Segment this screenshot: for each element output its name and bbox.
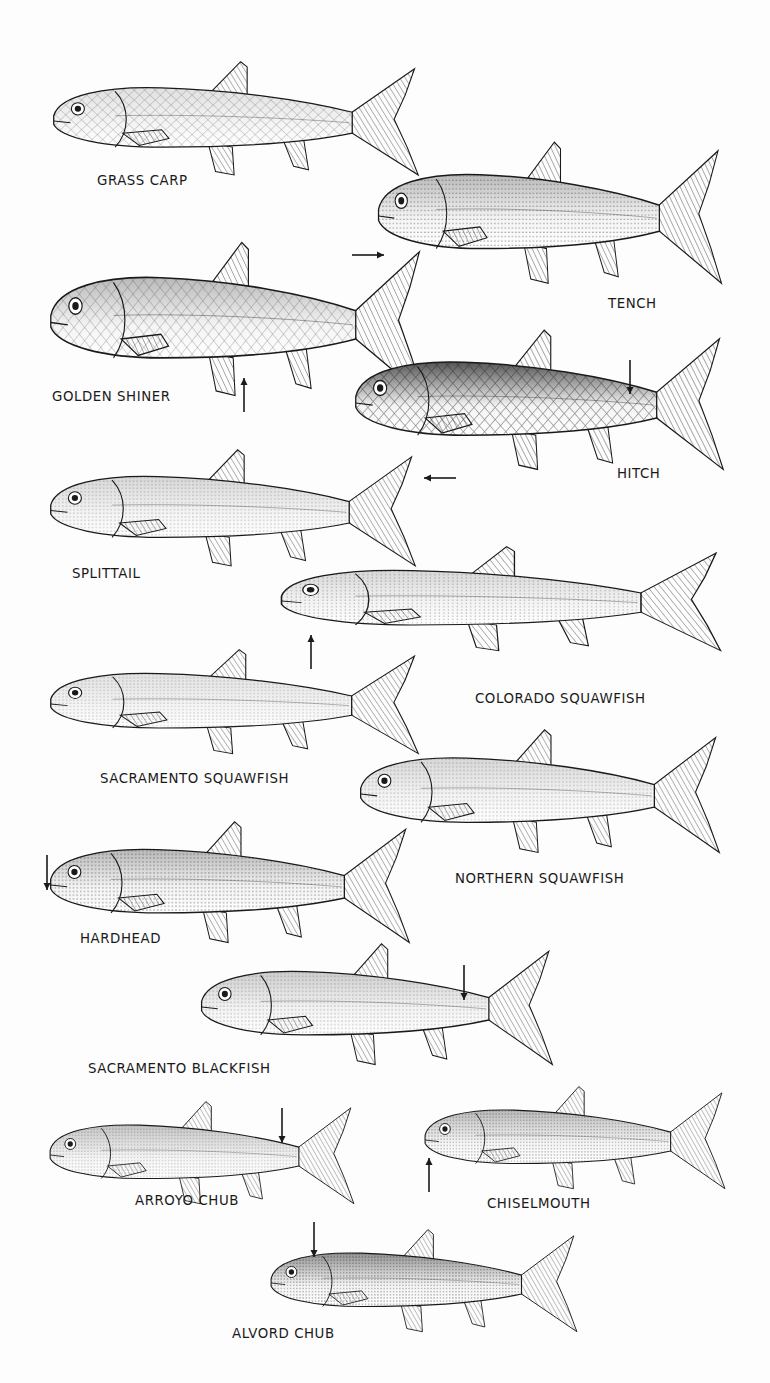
chiselmouth-pointer-arrow-icon [423,1152,435,1198]
arroyo-chub-pointer-arrow-icon [276,1102,288,1149]
hardhead-label: HARDHEAD [80,930,161,946]
hitch-pointer-arrow-icon [624,354,636,400]
sacramento-squawfish-label: SACRAMENTO SQUAWFISH [100,770,289,786]
alvord-chub-label: ALVORD CHUB [232,1325,335,1341]
tench-illustration [375,140,725,292]
northern-squawfish-label: NORTHERN SQUAWFISH [455,870,624,886]
golden-shiner-pointer-arrow-icon [238,372,250,418]
splittail-pointer-arrow-icon [418,472,462,484]
sacramento-blackfish-illustration [198,942,556,1072]
grass-carp-illustration [50,60,422,182]
splittail-label: SPLITTAIL [72,565,140,581]
golden-shiner-label: GOLDEN SHINER [52,388,170,404]
hitch-label: HITCH [617,465,660,481]
alvord-chub-pointer-arrow-icon [308,1216,320,1263]
colorado-squawfish-label: COLORADO SQUAWFISH [475,690,646,706]
chiselmouth-label: CHISELMOUTH [487,1195,591,1211]
hardhead-pointer-arrow-icon [41,849,53,896]
sacramento-blackfish-label: SACRAMENTO BLACKFISH [88,1060,271,1076]
colorado-squawfish-illustration [277,545,725,657]
grass-carp-label: GRASS CARP [97,172,188,188]
tench-label: TENCH [608,295,657,311]
fish-identification-plate: GRASS CARP [0,0,770,1383]
chiselmouth-illustration [422,1085,728,1195]
sacramento-blackfish-pointer-arrow-icon [458,959,470,1006]
arroyo-chub-label: ARROYO CHUB [135,1192,239,1208]
